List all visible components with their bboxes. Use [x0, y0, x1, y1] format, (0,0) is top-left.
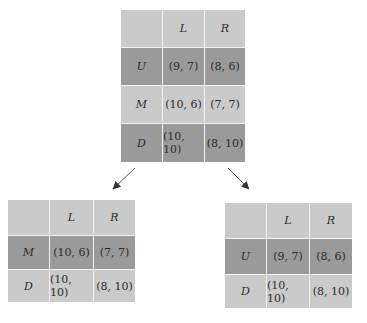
payoff-cell: (8, 10) [310, 275, 352, 308]
column-header-l: L [267, 203, 309, 238]
right-payoff-matrix: L R U (9, 7) (8, 6) D (10, 10) (8, 10) [225, 203, 352, 308]
payoff-cell: (8, 6) [310, 239, 352, 274]
column-header-l: L [50, 200, 93, 235]
payoff-cell: (9, 7) [267, 239, 309, 274]
column-header-r: R [310, 203, 352, 238]
row-header-u: U [225, 239, 266, 274]
left-payoff-matrix: L R M (10, 6) (7, 7) D (10, 10) (8, 10) [8, 200, 135, 302]
row-header-d: D [225, 275, 266, 308]
payoff-cell: (10, 10) [267, 275, 309, 308]
row-header-d: D [8, 270, 49, 302]
arrow-down-left-icon [114, 168, 135, 188]
row-header-m: M [8, 236, 49, 269]
corner-cell [8, 200, 49, 235]
payoff-cell: (10, 10) [50, 270, 93, 302]
column-header-r: R [94, 200, 135, 235]
arrow-down-right-icon [228, 168, 248, 188]
payoff-cell: (7, 7) [94, 236, 135, 269]
payoff-cell: (8, 10) [94, 270, 135, 302]
payoff-cell: (10, 6) [50, 236, 93, 269]
corner-cell [225, 203, 266, 238]
